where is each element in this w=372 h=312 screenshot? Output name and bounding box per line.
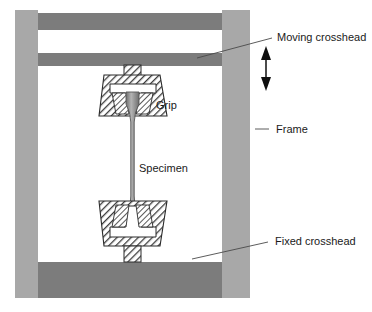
label-frame: Frame [276, 123, 308, 135]
moving-crosshead-beam [38, 53, 222, 66]
diagram-canvas: Moving crosshead Frame Fixed crosshead G… [0, 0, 372, 312]
lower-grip-stud [124, 246, 141, 262]
fixed-crosshead-base [38, 262, 222, 298]
frame-column-right [222, 10, 250, 298]
frame-column-left [15, 10, 38, 298]
tensile-test-machine-diagram: Moving crosshead Frame Fixed crosshead G… [0, 0, 372, 312]
label-moving-crosshead: Moving crosshead [277, 31, 366, 43]
top-beam [38, 13, 222, 30]
label-specimen: Specimen [139, 162, 188, 174]
motion-arrow-icon [261, 46, 271, 91]
label-fixed-crosshead: Fixed crosshead [275, 235, 356, 247]
label-grip: Grip [156, 99, 177, 111]
